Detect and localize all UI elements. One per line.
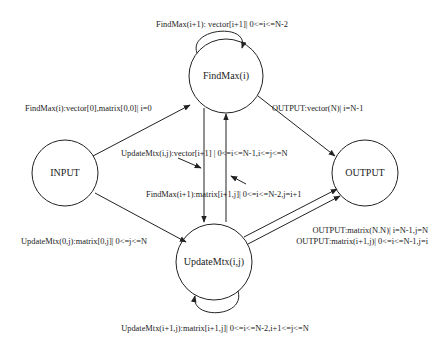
edge-label-update-self: UpdateMtx(i+1,j):matrix[i+1,j]| 0<=i<=N-…: [121, 324, 309, 333]
diagram-svg: FindMax(i) INPUT OUTPUT UpdateMtx(i,j) F…: [0, 0, 447, 344]
edge-update-self: [195, 291, 239, 313]
node-input: INPUT: [32, 140, 98, 206]
node-findmax: FindMax(i): [189, 39, 263, 113]
leader-arrow-update-label: [178, 158, 201, 168]
leader-arrow-findmax-label: [231, 176, 246, 184]
edge-label-findmax-self: FindMax(i+1): vector[i+1]| 0<=i<=N-2: [156, 20, 288, 29]
node-update: UpdateMtx(i,j): [176, 224, 252, 300]
node-input-label: INPUT: [50, 167, 79, 178]
edge-label-update-to-findmax: FindMax(i+1):matrix[i+1,j]| 0<=i<=N-2,j=…: [146, 190, 302, 199]
edge-findmax-self: [196, 31, 243, 53]
edge-label-findmax-to-output: OUTPUT:vector(N)| i=N-1: [272, 104, 363, 113]
node-update-label: UpdateMtx(i,j): [184, 256, 244, 268]
node-output-label: OUTPUT: [345, 167, 384, 178]
edge-input-to-update: [95, 193, 186, 242]
node-output: OUTPUT: [332, 140, 398, 206]
edge-label-input-to-findmax: FindMax(i):vector[0],matrix[0,0]| i=0: [25, 104, 152, 113]
state-diagram: FindMax(i) INPUT OUTPUT UpdateMtx(i,j) F…: [0, 0, 447, 344]
node-findmax-label: FindMax(i): [203, 70, 249, 82]
edge-label-findmax-to-update: UpdateMtx(i,j):vector[i+1] | 0<=i<=N-1,i…: [121, 149, 288, 158]
edge-label-update-to-output-1: OUTPUT:matrix(N.N)| i=N-1,j=N: [312, 226, 428, 235]
edge-label-update-to-output-2: OUTPUT:matrix(i+1,j)| 0<=i<=N-1,j=i: [296, 237, 428, 246]
edge-label-input-to-update: UpdateMtx(0,j):matrix[0,j]| 0<=j<=N: [21, 237, 147, 246]
